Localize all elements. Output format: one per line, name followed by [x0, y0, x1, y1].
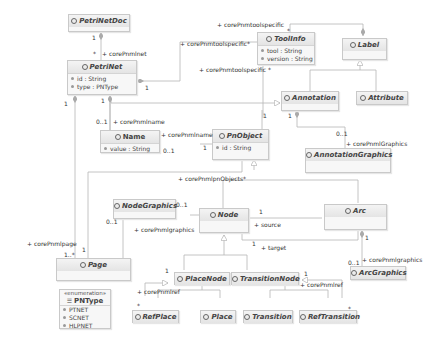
class-name: AnnotationGraphics	[314, 151, 392, 159]
multiplicity: *	[247, 40, 250, 47]
class-icon	[232, 276, 238, 282]
class-icon	[203, 314, 209, 320]
class-name: ArcGraphics	[359, 269, 407, 277]
class-name: Label	[358, 41, 379, 49]
role-label: + corePnmlGraphics	[346, 140, 407, 147]
class-icon	[266, 36, 272, 42]
multiplicity: *	[348, 305, 351, 312]
multiplicity: *	[137, 302, 140, 309]
role-label: + corePnmlnet	[102, 50, 147, 57]
class-name: Transition	[252, 313, 291, 321]
class-icon	[219, 133, 225, 139]
class-name[interactable]: Name value : String	[100, 130, 160, 153]
class-name: Annotation	[292, 94, 336, 102]
class-name: Node	[218, 211, 238, 219]
attribute: id : String	[216, 144, 265, 152]
class-name: NodeGraphics	[122, 202, 177, 210]
class-name: Page	[88, 261, 107, 269]
class-place[interactable]: Place	[200, 310, 236, 323]
class-icon	[350, 42, 356, 48]
multiplicity: 1..*	[64, 251, 75, 258]
role-label: + corePnmtoolspecific	[180, 40, 247, 47]
multiplicity: 1	[203, 144, 207, 151]
class-name: RefPlace	[143, 313, 177, 321]
class-label[interactable]: Label	[342, 38, 387, 60]
class-transitionnode[interactable]: TransitionNode	[231, 272, 299, 285]
class-icon	[177, 276, 183, 282]
class-icon	[345, 208, 351, 214]
class-arcgraphics[interactable]: ArcGraphics	[350, 266, 406, 280]
class-icon	[351, 270, 357, 276]
class-icon	[115, 134, 121, 140]
role-label: + source	[254, 221, 281, 228]
class-name: ToolInfo	[274, 35, 305, 43]
class-nodegraphics[interactable]: NodeGraphics	[113, 199, 176, 219]
role-label: + corePnmlref	[137, 288, 180, 295]
role-label: + corePnmlref	[300, 281, 343, 288]
multiplicity: *	[93, 50, 96, 57]
class-toolinfo[interactable]: ToolInfo tool : String version : String	[257, 32, 315, 65]
class-refplace[interactable]: RefPlace	[132, 310, 179, 323]
class-arc[interactable]: Arc	[324, 204, 387, 230]
class-annotationgraphics[interactable]: AnnotationGraphics	[305, 148, 391, 173]
class-name-label: Name	[123, 133, 146, 141]
class-icon	[71, 18, 77, 24]
class-placenode[interactable]: PlaceNode	[174, 272, 230, 285]
role-label: + corePnmlpage	[27, 240, 77, 247]
role-label: + corePnmlgraphics	[134, 226, 194, 233]
multiplicity: 1	[64, 100, 68, 107]
attribute: tool : String	[261, 47, 311, 55]
class-attribute[interactable]: Attribute	[356, 91, 408, 105]
class-name: PetriNetDoc	[79, 17, 127, 25]
class-pnobject[interactable]: PnObject id : String	[212, 129, 269, 160]
enumeration-pntype[interactable]: «enumeration» ☰PNType PTNET SCNET HLPNET	[59, 289, 111, 329]
multiplicity: 0..1	[96, 118, 107, 125]
attribute: id : String	[71, 75, 133, 83]
multiplicity: 1	[82, 246, 86, 253]
role-label: + corePnmlname	[161, 131, 213, 138]
class-transition[interactable]: Transition	[243, 310, 293, 323]
multiplicity: 1	[92, 34, 96, 41]
multiplicity: 1	[304, 270, 308, 277]
class-icon	[210, 212, 216, 218]
multiplicity: 1	[365, 234, 369, 241]
role-label: + corePnmtoolspecific	[217, 21, 284, 28]
multiplicity: 1	[259, 208, 263, 215]
class-icon	[80, 262, 86, 268]
enum-icon: ☰	[67, 297, 72, 304]
multiplicity: 1	[145, 84, 149, 91]
multiplicity: 1	[101, 97, 105, 104]
enum-literal: PTNET	[63, 306, 107, 314]
multiplicity: 0..1	[176, 201, 187, 208]
class-icon	[284, 95, 290, 101]
class-petrinet[interactable]: PetriNet id : String type : PNType	[67, 60, 137, 95]
enum-literal: SCNET	[63, 314, 107, 322]
multiplicity: *	[243, 175, 246, 182]
class-icon	[135, 314, 141, 320]
role-label: + corePnmlname	[113, 118, 165, 125]
class-page[interactable]: Page	[56, 258, 131, 281]
multiplicity: 0..1	[106, 218, 117, 225]
class-node[interactable]: Node	[199, 208, 249, 233]
class-name: Place	[211, 313, 232, 321]
multiplicity: *	[287, 27, 290, 34]
class-name: PetriNet	[90, 63, 123, 71]
class-annotation[interactable]: Annotation	[281, 91, 339, 111]
class-name: RefTransition	[308, 313, 360, 321]
class-name: PnObject	[227, 132, 263, 140]
role-label: + corePnmtoolspecific	[199, 66, 266, 73]
class-icon	[114, 203, 120, 209]
class-name: TransitionNode	[240, 275, 300, 283]
multiplicity: 0..1	[348, 259, 359, 266]
multiplicity: *	[268, 66, 271, 73]
class-name: PlaceNode	[185, 275, 227, 283]
multiplicity: 1	[263, 112, 267, 119]
class-icon	[306, 152, 312, 158]
class-name: Attribute	[368, 94, 404, 102]
enum-name: PNType	[74, 297, 103, 305]
multiplicity: 1	[288, 112, 292, 119]
attribute: value : String	[104, 145, 156, 153]
multiplicity: 1	[165, 267, 169, 274]
class-petrinetdoc[interactable]: PetriNetDoc	[68, 14, 130, 32]
multiplicity: 0..1	[163, 147, 174, 154]
